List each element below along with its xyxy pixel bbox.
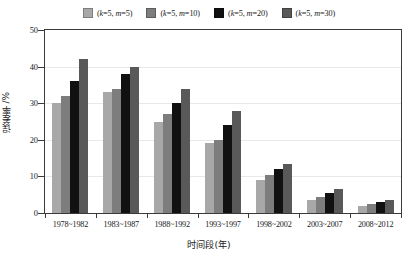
bar[interactable] — [112, 89, 121, 213]
bar[interactable] — [121, 74, 130, 213]
bar-group — [96, 30, 147, 213]
legend-item[interactable]: (k=5, m=30) — [282, 8, 336, 18]
legend-item-label: (k=5, m=10) — [160, 9, 200, 18]
x-axis-tick-marks — [45, 214, 401, 219]
bar[interactable] — [205, 143, 214, 213]
chart-legend: (k=5, m=5)(k=5, m=10)(k=5, m=20)(k=5, m=… — [0, 8, 418, 18]
y-axis-tick-label: 10 — [8, 172, 38, 181]
x-axis-tick-label: 1983~1987 — [96, 220, 147, 229]
bar[interactable] — [52, 103, 61, 213]
bar[interactable] — [61, 96, 70, 213]
legend-swatch-icon — [214, 8, 224, 18]
bar[interactable] — [274, 169, 283, 213]
bars-layer — [45, 30, 401, 213]
x-axis-tick-label: 1998~2002 — [248, 220, 299, 229]
bar-group — [45, 30, 96, 213]
y-axis-tick-label: 0 — [8, 209, 38, 218]
legend-item-label: (k=5, m=30) — [296, 9, 336, 18]
legend-item-label: (k=5, m=20) — [228, 9, 268, 18]
bar[interactable] — [232, 111, 241, 213]
x-axis-tick-mark — [147, 214, 148, 218]
x-axis-tick-mark — [401, 214, 402, 218]
y-axis-tick-label: 40 — [8, 62, 38, 71]
x-axis-tick-label: 2008~2012 — [350, 220, 401, 229]
bar[interactable] — [334, 189, 343, 213]
x-axis-tick-label: 1978~1982 — [45, 220, 96, 229]
bar-group — [299, 30, 350, 213]
bar[interactable] — [316, 197, 325, 213]
x-axis-tick-mark — [350, 214, 351, 218]
bar[interactable] — [181, 89, 190, 213]
x-axis-tick-mark — [198, 214, 199, 218]
x-axis-tick-label: 2003~2007 — [299, 220, 350, 229]
x-axis-tick-label: 1993~1997 — [198, 220, 249, 229]
bar[interactable] — [79, 59, 88, 213]
bar[interactable] — [367, 204, 376, 213]
x-axis-title: 时间段(年) — [0, 237, 418, 251]
y-axis-tick-label: 30 — [8, 99, 38, 108]
bar[interactable] — [103, 92, 112, 213]
legend-swatch-icon — [146, 8, 156, 18]
bar-group — [248, 30, 299, 213]
legend-swatch-icon — [83, 8, 93, 18]
bar-group — [147, 30, 198, 213]
bar[interactable] — [154, 122, 163, 214]
bar[interactable] — [358, 206, 367, 213]
x-axis-tick-labels: 1978~19821983~19871988~19921993~19971998… — [45, 220, 401, 229]
bar[interactable] — [325, 193, 334, 213]
bar[interactable] — [163, 114, 172, 213]
bar[interactable] — [265, 175, 274, 213]
bar-group — [198, 30, 249, 213]
bar[interactable] — [283, 164, 292, 213]
legend-item[interactable]: (k=5, m=20) — [214, 8, 268, 18]
bar[interactable] — [172, 103, 181, 213]
legend-swatch-icon — [282, 8, 292, 18]
x-axis-tick-mark — [96, 214, 97, 218]
legend-item[interactable]: (k=5, m=5) — [83, 8, 133, 18]
bar-chart: (k=5, m=5)(k=5, m=10)(k=5, m=20)(k=5, m=… — [0, 0, 418, 264]
bar[interactable] — [223, 125, 232, 213]
bar[interactable] — [256, 180, 265, 213]
bar-group — [350, 30, 401, 213]
bar[interactable] — [214, 140, 223, 213]
x-axis-tick-mark — [248, 214, 249, 218]
bar[interactable] — [376, 202, 385, 213]
bar[interactable] — [307, 200, 316, 213]
bar[interactable] — [385, 200, 394, 213]
legend-item-label: (k=5, m=5) — [97, 9, 133, 18]
x-axis-tick-mark — [299, 214, 300, 218]
y-axis-tick-labels: 50403020100 — [6, 29, 38, 214]
y-axis-tick-label: 20 — [8, 135, 38, 144]
x-axis-tick-label: 1988~1992 — [147, 220, 198, 229]
bar[interactable] — [70, 81, 79, 213]
bar[interactable] — [130, 67, 139, 213]
legend-item[interactable]: (k=5, m=10) — [146, 8, 200, 18]
y-axis-tick-label: 50 — [8, 26, 38, 35]
x-axis-tick-mark — [45, 214, 46, 218]
